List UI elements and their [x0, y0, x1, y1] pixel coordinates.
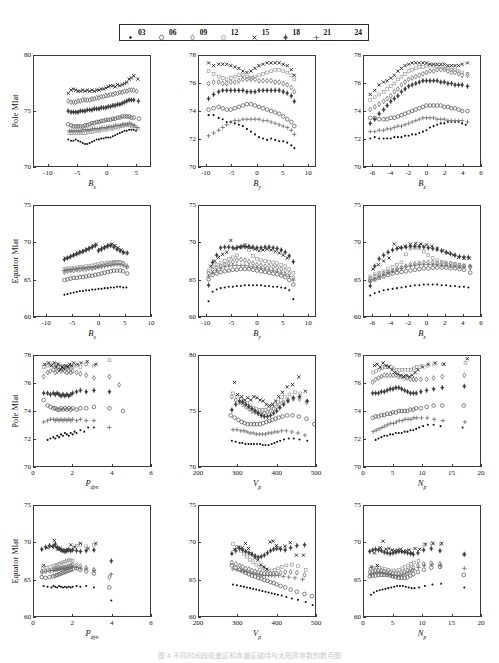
xaxis-label-sub: dyn: [91, 634, 99, 640]
xaxis-label-sub: y: [258, 334, 260, 340]
xtick-mark: [257, 164, 258, 167]
ytick-mark: [363, 280, 366, 281]
subplot-r3c1: 70727476780246PdynPole Mlat: [0, 346, 165, 496]
series-18: [207, 88, 297, 104]
scatter-layer-r3c2: [199, 356, 315, 466]
xtick-mark: [393, 614, 394, 617]
xaxis-label-r3c3: Np: [363, 478, 481, 490]
xaxis-label-r4c1: Pdyn: [33, 628, 151, 640]
xtick-label: 5: [379, 619, 407, 627]
ytick-mark: [33, 383, 36, 384]
xtick-label: 0: [19, 619, 47, 627]
xaxis-label-r2c1: Bx: [33, 328, 151, 340]
xtick-mark: [452, 614, 453, 617]
ytick-mark: [198, 355, 201, 356]
xtick-label: 500: [302, 619, 330, 627]
axes-r2c3: [363, 205, 481, 317]
series-18: [62, 243, 129, 262]
xtick-mark: [107, 164, 108, 167]
xtick-mark: [427, 164, 428, 167]
ytick-mark: [33, 617, 36, 618]
series-03: [63, 286, 127, 296]
ytick-mark: [363, 617, 366, 618]
xtick-label: 2: [58, 619, 86, 627]
ytick-mark: [198, 83, 201, 84]
xtick-label: 6: [467, 169, 495, 177]
xtick-mark: [72, 614, 73, 617]
xtick-mark: [151, 614, 152, 617]
ytick-mark: [198, 167, 201, 168]
xaxis-label-r2c2: By: [198, 328, 316, 340]
series-15: [373, 357, 469, 378]
xaxis-label-r1c1: Bx: [33, 178, 151, 190]
series-03: [369, 283, 469, 296]
xtick-label: 4: [98, 619, 126, 627]
series-18: [42, 388, 112, 399]
ytick-mark: [33, 205, 36, 206]
legend-entry-03: 03: [126, 28, 146, 37]
axes-r4c3: [363, 505, 481, 617]
xtick-mark: [481, 164, 482, 167]
ytick-mark: [33, 280, 36, 281]
xtick-label: -5: [63, 169, 91, 177]
ytick-mark: [198, 55, 201, 56]
series-18: [230, 542, 307, 560]
xtick-mark: [316, 614, 317, 617]
ytick-mark: [198, 280, 201, 281]
ytick-mark: [198, 467, 201, 468]
filled-dot-icon: [126, 28, 135, 37]
ytick-mark: [198, 111, 201, 112]
ytick-mark: [198, 505, 201, 506]
series-03: [370, 583, 465, 596]
xtick-label: 0: [243, 169, 271, 177]
ytick-label: 74: [343, 107, 361, 115]
xaxis-label-r3c2: Vp: [198, 478, 316, 490]
xtick-label: 5: [379, 469, 407, 477]
plot-row-1: 707580-10-505BxPole Mlat7072747678-10-50…: [0, 46, 499, 196]
ytick-mark: [198, 317, 201, 318]
xtick-mark: [463, 314, 464, 317]
xaxis-label-r4c2: Vp: [198, 628, 316, 640]
ytick-label: 74: [343, 407, 361, 415]
xtick-mark: [372, 164, 373, 167]
ytick-mark: [363, 139, 366, 140]
plot-row-4: 606570750246PdynEquator Mlat606570752003…: [0, 496, 499, 646]
xtick-label: 500: [302, 469, 330, 477]
ytick-mark: [363, 55, 366, 56]
xtick-label: 0: [243, 319, 271, 327]
xtick-label: 6: [467, 319, 495, 327]
xtick-mark: [422, 614, 423, 617]
xtick-mark: [72, 464, 73, 467]
ytick-label: 75: [178, 201, 196, 209]
axes-r3c3: [363, 355, 481, 467]
legend-label: 21: [324, 29, 332, 37]
xtick-mark: [463, 164, 464, 167]
series-03: [232, 583, 314, 606]
xtick-mark: [136, 164, 137, 167]
xtick-mark: [390, 314, 391, 317]
subplot-r1c2: 7072747678-10-50510By: [165, 46, 330, 196]
xtick-label: 0: [349, 469, 377, 477]
ytick-mark: [198, 139, 201, 140]
subplot-r2c2: 60657075-10-50510By: [165, 196, 330, 346]
open-square-icon: [219, 28, 228, 37]
ytick-mark: [33, 55, 36, 56]
xtick-label: -5: [217, 169, 245, 177]
xtick-mark: [481, 614, 482, 617]
xtick-label: -5: [58, 319, 86, 327]
xtick-mark: [231, 164, 232, 167]
xtick-mark: [408, 164, 409, 167]
xtick-mark: [390, 164, 391, 167]
ytick-mark: [363, 467, 366, 468]
scatter-layer-r4c2: [199, 506, 315, 616]
xtick-mark: [427, 314, 428, 317]
ytick-mark: [363, 439, 366, 440]
ytick-label: 76: [343, 379, 361, 387]
xtick-mark: [308, 164, 309, 167]
xtick-label: 0: [93, 169, 121, 177]
xaxis-label-r3c1: Pdyn: [33, 478, 151, 490]
axes-r4c1: [33, 505, 151, 617]
xtick-label: 300: [223, 469, 251, 477]
ytick-label: 72: [343, 435, 361, 443]
xtick-mark: [237, 464, 238, 467]
